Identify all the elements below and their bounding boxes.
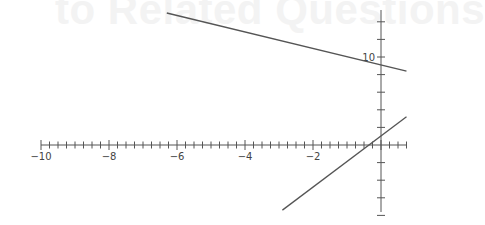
series-line-2 [282, 117, 406, 210]
x-tick-label: −8 [102, 151, 117, 162]
x-tick-label: −2 [306, 151, 321, 162]
x-tick-label: −4 [238, 151, 253, 162]
x-tick-label: −10 [30, 151, 51, 162]
series-line-1 [167, 13, 407, 71]
x-tick-label: −6 [170, 151, 185, 162]
